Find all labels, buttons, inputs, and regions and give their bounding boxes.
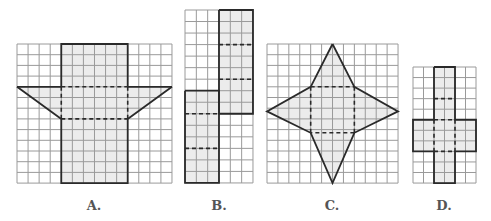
figure-a-net xyxy=(17,44,172,183)
label-c: C. xyxy=(325,198,340,213)
figure-c-net xyxy=(267,44,398,183)
label-a: A. xyxy=(87,198,102,213)
figures-canvas xyxy=(0,0,491,221)
figure-d-net xyxy=(413,67,476,183)
grid-lines xyxy=(17,44,172,183)
label-d: D. xyxy=(436,198,451,213)
figure-b-net xyxy=(185,10,253,183)
label-b: B. xyxy=(211,198,227,213)
